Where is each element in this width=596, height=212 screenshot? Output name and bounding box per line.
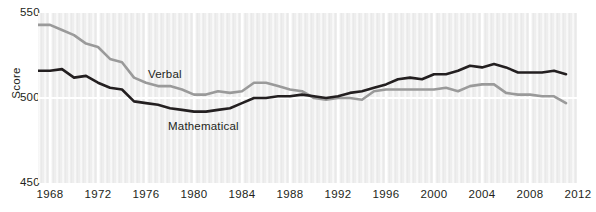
x-axis-tick-1988: 1988 (267, 188, 313, 200)
plot-area (38, 13, 578, 183)
x-axis-tick-1968: 1968 (27, 188, 73, 200)
x-axis-tick-1996: 1996 (363, 188, 409, 200)
x-axis-tick-2000: 2000 (411, 188, 457, 200)
x-axis-tick-2008: 2008 (507, 188, 553, 200)
x-axis-tick-1992: 1992 (315, 188, 361, 200)
y-axis-tick-550: 550 (0, 6, 40, 18)
y-axis-tick-500: 500 (0, 91, 40, 103)
series-label-mathematical: Mathematical (168, 120, 239, 132)
series-label-verbal: Verbal (148, 68, 182, 80)
mathematical-line (38, 64, 566, 112)
x-axis-tick-2012: 2012 (555, 188, 596, 200)
verbal-line (38, 25, 566, 103)
x-axis-tick-1980: 1980 (171, 188, 217, 200)
x-axis-tick-1984: 1984 (219, 188, 265, 200)
series-lines (38, 13, 578, 183)
x-axis-tick-2004: 2004 (459, 188, 505, 200)
x-axis-tick-1976: 1976 (123, 188, 169, 200)
y-axis-tick-450: 450 (0, 176, 40, 188)
x-axis-tick-1972: 1972 (75, 188, 121, 200)
